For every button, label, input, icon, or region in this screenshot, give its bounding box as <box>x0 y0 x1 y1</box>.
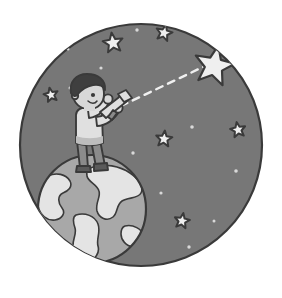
sparkle-8 <box>213 220 216 223</box>
sparkle-6 <box>234 169 238 173</box>
boy-shoe-back <box>76 166 91 172</box>
boy-eye <box>91 93 95 97</box>
sparkle-4 <box>190 125 194 129</box>
boy-shoe-front <box>94 163 108 171</box>
night-sky-illustration <box>0 0 282 298</box>
sparkle-9 <box>187 245 190 248</box>
sparkle-1 <box>135 28 138 31</box>
sparkle-5 <box>131 151 134 154</box>
sparkle-2 <box>99 66 102 69</box>
sparkle-7 <box>159 191 162 194</box>
boy-neck <box>84 106 95 111</box>
illustration-root <box>0 0 282 298</box>
